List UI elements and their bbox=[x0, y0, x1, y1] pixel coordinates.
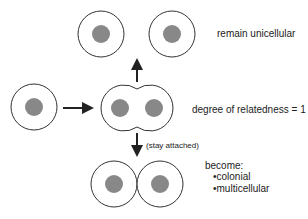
separated-cells bbox=[78, 11, 195, 57]
relatedness-label: degree of relatedness = 1 bbox=[192, 104, 306, 115]
stay-attached-label: (stay attached) bbox=[146, 141, 199, 150]
attached-cells bbox=[91, 161, 183, 207]
outcome-colonial: colonial bbox=[213, 171, 269, 183]
outcome-list: colonial multicellular bbox=[205, 171, 269, 195]
outcome-multicellular: multicellular bbox=[213, 183, 269, 195]
become-label: become: colonial multicellular bbox=[205, 160, 269, 195]
become-heading: become: bbox=[205, 160, 269, 171]
dividing-cell bbox=[101, 85, 173, 131]
single-cell bbox=[11, 84, 57, 130]
remain-unicellular-label: remain unicellular bbox=[217, 28, 295, 39]
